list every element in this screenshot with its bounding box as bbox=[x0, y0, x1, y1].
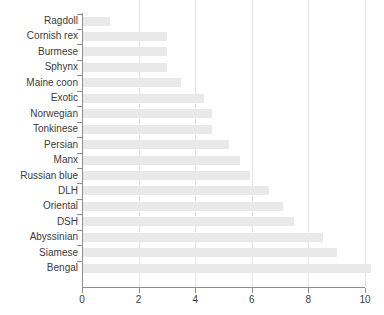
bar bbox=[82, 125, 212, 134]
y-axis-tick-label: DLH bbox=[4, 186, 78, 196]
y-axis-tick-label: Sphynx bbox=[4, 62, 78, 72]
y-axis-tick-label: Burmese bbox=[4, 47, 78, 57]
x-axis-tick bbox=[82, 288, 83, 293]
y-axis-tick-label: Tonkinese bbox=[4, 124, 78, 134]
bar bbox=[82, 248, 337, 257]
y-axis-tick bbox=[77, 168, 82, 169]
y-axis-tick bbox=[77, 122, 82, 123]
y-axis-tick-label: Bengal bbox=[4, 263, 78, 273]
x-axis-tick-label: 8 bbox=[296, 295, 320, 305]
y-axis-tick bbox=[77, 60, 82, 61]
y-axis-tick bbox=[77, 75, 82, 76]
y-axis-tick bbox=[77, 153, 82, 154]
bars-layer bbox=[82, 0, 384, 287]
x-axis-tick bbox=[365, 288, 366, 293]
x-axis-tick-label: 6 bbox=[240, 295, 264, 305]
y-axis-tick-label: Persian bbox=[4, 140, 78, 150]
y-axis-tick-label: Norwegian bbox=[4, 109, 78, 119]
bar bbox=[82, 264, 371, 273]
bar bbox=[82, 140, 229, 149]
bar bbox=[82, 233, 323, 242]
bar bbox=[82, 109, 212, 118]
x-axis-tick bbox=[252, 288, 253, 293]
bar bbox=[82, 186, 269, 195]
bar bbox=[82, 94, 204, 103]
x-axis-tick-label: 10 bbox=[353, 295, 377, 305]
bar bbox=[82, 32, 167, 41]
y-axis-line bbox=[82, 13, 83, 287]
y-axis-tick bbox=[77, 183, 82, 184]
y-axis-tick bbox=[77, 199, 82, 200]
y-axis-tick-label: Abyssinian bbox=[4, 232, 78, 242]
y-axis-tick-label: Manx bbox=[4, 155, 78, 165]
y-axis-tick-label: Oriental bbox=[4, 201, 78, 211]
y-axis-tick bbox=[77, 14, 82, 15]
y-axis-tick bbox=[77, 230, 82, 231]
y-axis-tick bbox=[77, 106, 82, 107]
bar bbox=[82, 156, 240, 165]
y-axis-tick bbox=[77, 29, 82, 30]
y-axis-tick-label: Russian blue bbox=[4, 171, 78, 181]
x-axis-tick-label: 4 bbox=[183, 295, 207, 305]
bar bbox=[82, 63, 167, 72]
bar bbox=[82, 217, 294, 226]
y-axis-tick-label: Maine coon bbox=[4, 78, 78, 88]
bar-chart: RagdollCornish rexBurmeseSphynxMaine coo… bbox=[0, 0, 384, 315]
x-axis-tick-label: 0 bbox=[70, 295, 94, 305]
bar bbox=[82, 171, 250, 180]
y-axis-tick bbox=[77, 261, 82, 262]
y-axis-tick-label: Exotic bbox=[4, 93, 78, 103]
y-axis-tick bbox=[77, 214, 82, 215]
bar bbox=[82, 47, 167, 56]
bar bbox=[82, 17, 110, 26]
bar bbox=[82, 78, 181, 87]
y-axis-tick-label: Siamese bbox=[4, 248, 78, 258]
y-axis-labels: RagdollCornish rexBurmeseSphynxMaine coo… bbox=[0, 0, 78, 300]
y-axis-tick-label: Cornish rex bbox=[4, 31, 78, 41]
x-axis-line bbox=[82, 287, 365, 288]
x-axis-tick-label: 2 bbox=[127, 295, 151, 305]
y-axis-tick bbox=[77, 91, 82, 92]
y-axis-tick-label: Ragdoll bbox=[4, 16, 78, 26]
y-axis-tick bbox=[77, 137, 82, 138]
bar bbox=[82, 202, 283, 211]
x-axis-tick bbox=[139, 288, 140, 293]
x-axis-tick bbox=[195, 288, 196, 293]
x-axis-tick bbox=[308, 288, 309, 293]
y-axis-tick-label: DSH bbox=[4, 217, 78, 227]
y-axis-tick bbox=[77, 44, 82, 45]
y-axis-tick bbox=[77, 245, 82, 246]
